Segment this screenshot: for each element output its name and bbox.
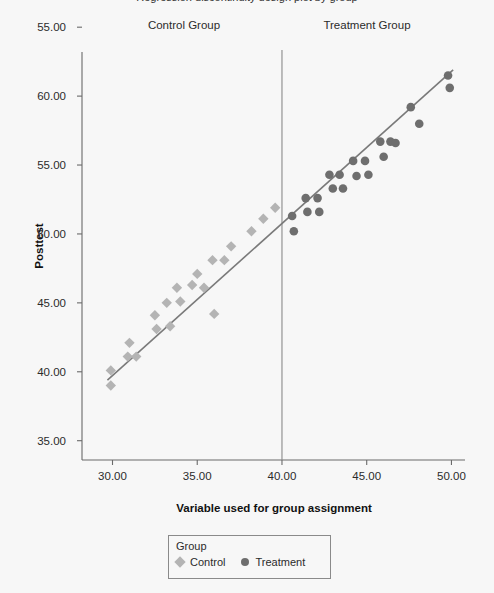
chart-legend: Group ControlTreatment — [168, 535, 331, 579]
data-point — [415, 119, 424, 128]
data-point — [175, 296, 185, 306]
data-point — [301, 194, 310, 203]
data-point — [106, 380, 116, 390]
data-point — [303, 208, 312, 217]
data-point — [124, 338, 134, 348]
data-point — [339, 184, 348, 193]
data-point — [187, 280, 197, 290]
legend-entry-control: Control — [176, 556, 225, 568]
data-point — [329, 184, 338, 193]
legend-entries: ControlTreatment — [176, 556, 323, 568]
data-point — [361, 157, 370, 166]
axis-lines — [82, 52, 465, 460]
data-point — [165, 321, 175, 331]
legend-label: Treatment — [255, 556, 305, 568]
series-control — [106, 203, 281, 391]
data-point — [219, 255, 229, 265]
data-point — [290, 227, 299, 236]
data-point — [335, 170, 344, 179]
data-point — [199, 283, 209, 293]
data-point — [379, 152, 388, 161]
data-point — [445, 84, 454, 93]
legend-entry-treatment: Treatment — [241, 556, 305, 568]
data-point — [406, 103, 415, 112]
data-point — [172, 283, 182, 293]
data-point — [325, 170, 334, 179]
data-point — [226, 241, 236, 251]
data-point — [352, 172, 361, 181]
plot-canvas — [0, 0, 494, 593]
data-point — [364, 170, 373, 179]
data-point — [270, 203, 280, 213]
legend-title: Group — [176, 539, 323, 553]
legend-label: Control — [190, 556, 225, 568]
data-point — [258, 214, 268, 224]
data-point — [246, 226, 256, 236]
data-point — [150, 310, 160, 320]
circle-marker-icon — [241, 558, 249, 566]
data-point — [391, 139, 400, 148]
regression-line — [107, 70, 453, 380]
series-treatment — [288, 71, 454, 235]
data-point — [444, 71, 453, 80]
data-point — [376, 137, 385, 146]
diamond-marker-icon — [174, 556, 185, 567]
data-point — [207, 255, 217, 265]
data-point — [209, 309, 219, 319]
data-point — [349, 157, 358, 166]
data-point — [288, 212, 297, 221]
data-point — [192, 269, 202, 279]
data-point — [313, 194, 322, 203]
data-point — [131, 351, 141, 361]
data-point — [162, 298, 172, 308]
chart-figure: Regression discontinuity design plot by … — [0, 0, 494, 593]
data-point — [315, 208, 324, 217]
